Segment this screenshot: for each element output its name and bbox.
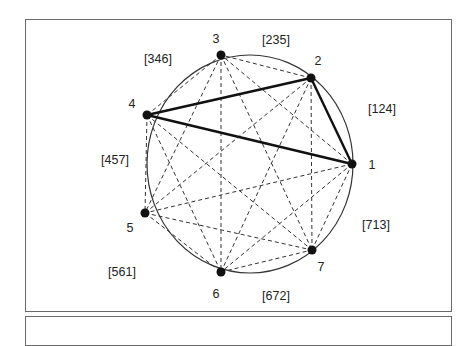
node-3 (217, 51, 226, 60)
dashed-edge-5-6 (145, 213, 221, 272)
dashed-edge-1-5 (145, 164, 352, 213)
dashed-edge-2-6 (221, 78, 311, 272)
node-label-3: 3 (213, 33, 220, 46)
node-label-2: 2 (315, 55, 322, 68)
triangle-label: [561] (108, 266, 136, 279)
triangle-label: [124] (368, 103, 396, 116)
node-5 (141, 209, 150, 218)
triangle-label: [346] (144, 53, 172, 66)
triangle-label: [672] (262, 290, 290, 303)
dashed-edge-1-6 (221, 164, 352, 272)
triangle-label: [235] (262, 34, 290, 47)
triangle-label: [457] (101, 154, 129, 167)
dashed-edge-2-3 (221, 55, 311, 78)
node-label-6: 6 (213, 288, 220, 301)
node-label-4: 4 (129, 98, 136, 111)
node-label-7: 7 (318, 261, 325, 274)
dashed-edge-2-7 (311, 78, 312, 250)
node-1 (348, 160, 357, 169)
triangle-label: [713] (362, 219, 390, 232)
dashed-edge-1-7 (312, 164, 352, 250)
node-2 (307, 74, 316, 83)
circle-outline (147, 55, 353, 273)
node-4 (143, 111, 152, 120)
dashed-edge-6-7 (221, 250, 312, 272)
node-7 (308, 246, 317, 255)
solid-edge-2-1 (311, 78, 352, 164)
node-label-5: 5 (127, 222, 134, 235)
dashed-edge-3-7 (221, 55, 312, 250)
solid-edge-4-1 (147, 115, 352, 164)
node-6 (217, 268, 226, 277)
dashed-edge-5-7 (145, 213, 312, 250)
node-label-1: 1 (369, 159, 376, 172)
dashed-edge-2-5 (145, 78, 311, 213)
